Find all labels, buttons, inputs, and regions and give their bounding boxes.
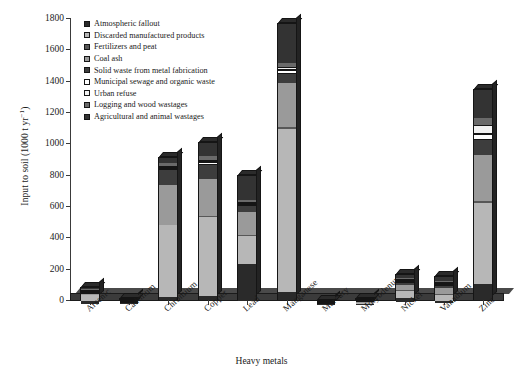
y-axis-tick-label: 1400: [2, 81, 70, 82]
legend-item-label: Fertilizers and peat: [94, 41, 157, 53]
bar-segment: [238, 212, 256, 235]
bar-segment: [199, 142, 217, 156]
legend-item-label: Discarded manufactured products: [94, 30, 205, 42]
y-axis-title-paren: ): [20, 107, 30, 110]
y-axis-tick-label: 600: [2, 206, 70, 207]
bar-segment: [278, 23, 296, 62]
bar-chromium: [158, 157, 178, 300]
y-axis-tick-label: 400: [2, 237, 70, 238]
bar-side-face: [296, 14, 301, 295]
bar-segment: [199, 217, 217, 295]
bar-side-face: [492, 79, 497, 295]
bar-top-edge: [396, 274, 416, 275]
y-axis-tick-label: 200: [2, 269, 70, 270]
y-axis-tick-label: 1000: [2, 143, 70, 144]
bar-top-edge: [199, 142, 219, 143]
bar-segment: [278, 74, 296, 83]
legend-item-label: Solid waste from metal fabrication: [94, 65, 208, 77]
chart-figure: Input to soil (1000 t yr−1) 020040060080…: [0, 0, 523, 380]
legend-swatch-icon: [84, 56, 90, 62]
legend-item-label: Urban refuse: [94, 88, 137, 100]
y-axis-title-superscript: −1: [18, 110, 26, 118]
y-axis-tick-label: 1800: [2, 18, 70, 19]
legend-swatch-icon: [84, 114, 90, 120]
bar-side-face: [256, 166, 261, 295]
legend-swatch-icon: [84, 90, 90, 96]
y-axis-tick-label: 0: [2, 300, 70, 301]
legend-item: Solid waste from metal fabrication: [84, 64, 215, 76]
legend-swatch-icon: [84, 44, 90, 50]
bar-segment: [474, 89, 492, 119]
bar-segment: [474, 140, 492, 154]
bar-top-edge: [278, 23, 298, 24]
bar-side-face: [177, 147, 182, 295]
bar-segment: [474, 203, 492, 284]
legend-item-label: Logging and wood wastages: [94, 99, 187, 111]
bar-segment: [278, 83, 296, 127]
legend-swatch-icon: [84, 32, 90, 38]
legend-item: Discarded manufactured products: [84, 30, 215, 42]
bar-segment: [278, 129, 296, 292]
bar-top-edge: [81, 287, 101, 288]
legend-swatch-icon: [84, 102, 90, 108]
legend-item: Coal ash: [84, 53, 215, 65]
y-axis-tick-mark: [66, 143, 70, 144]
legend-item-label: Coal ash: [94, 53, 122, 65]
legend-item: Urban refuse: [84, 88, 215, 100]
bar-segment: [474, 155, 492, 202]
y-axis-tick-mark: [66, 269, 70, 270]
bar-manganese: [277, 23, 297, 300]
legend-item: Logging and wood wastages: [84, 99, 215, 111]
bar-copper: [198, 142, 218, 300]
bar-segment: [238, 236, 256, 265]
bar-side-face: [217, 133, 222, 295]
y-axis-tick-mark: [66, 49, 70, 50]
y-axis-title-text: Input to soil (1000 t yr: [20, 117, 30, 205]
y-axis-tick-mark: [66, 81, 70, 82]
bar-lead: [237, 175, 257, 300]
bar-zinc: [473, 89, 493, 301]
bar-segment: [159, 185, 177, 225]
y-axis-tick-mark: [66, 175, 70, 176]
legend-item: Atmospheric fallout: [84, 18, 215, 30]
y-axis-tick-label: 1200: [2, 112, 70, 113]
y-axis-tick-mark: [66, 112, 70, 113]
legend-swatch-icon: [84, 79, 90, 85]
y-axis-title: Input to soil (1000 t yr−1): [18, 36, 30, 276]
bar-segment: [159, 170, 177, 185]
y-axis-tick-label: 800: [2, 175, 70, 176]
bar-segment: [238, 175, 256, 200]
legend-item-label: Atmospheric fallout: [94, 18, 160, 30]
bar-segment: [199, 179, 217, 216]
bar-segment: [199, 165, 217, 179]
y-axis-tick-label: 1600: [2, 49, 70, 50]
legend-item: Municipal sewage and organic waste: [84, 76, 215, 88]
legend-swatch-icon: [84, 67, 90, 73]
legend-item-label: Municipal sewage and organic waste: [94, 76, 215, 88]
bar-segment: [474, 134, 492, 141]
chart-legend: Atmospheric falloutDiscarded manufacture…: [84, 18, 215, 122]
y-axis-tick-mark: [66, 18, 70, 19]
legend-item: Fertilizers and peat: [84, 41, 215, 53]
bar-segment: [474, 125, 492, 134]
x-axis-title: Heavy metals: [0, 356, 523, 366]
legend-swatch-icon: [84, 21, 90, 27]
y-axis-tick-mark: [66, 206, 70, 207]
legend-item: Agricultural and animal wastages: [84, 111, 215, 123]
y-axis-tick-mark: [66, 237, 70, 238]
legend-item-label: Agricultural and animal wastages: [94, 111, 204, 123]
bar-segment: [159, 225, 177, 297]
